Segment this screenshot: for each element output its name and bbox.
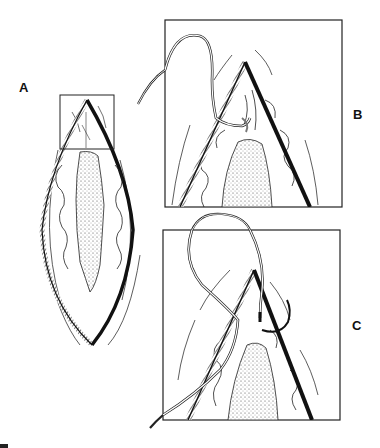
illustration [0, 0, 380, 448]
panel-a-wound [42, 100, 140, 345]
corner-mark [0, 444, 8, 448]
panel-c-suture-loop [192, 214, 250, 230]
panel-b-suture-tail [138, 70, 165, 104]
panel-b [165, 20, 342, 207]
panel-c [163, 230, 340, 420]
panel-c-suture-tail [150, 415, 163, 428]
